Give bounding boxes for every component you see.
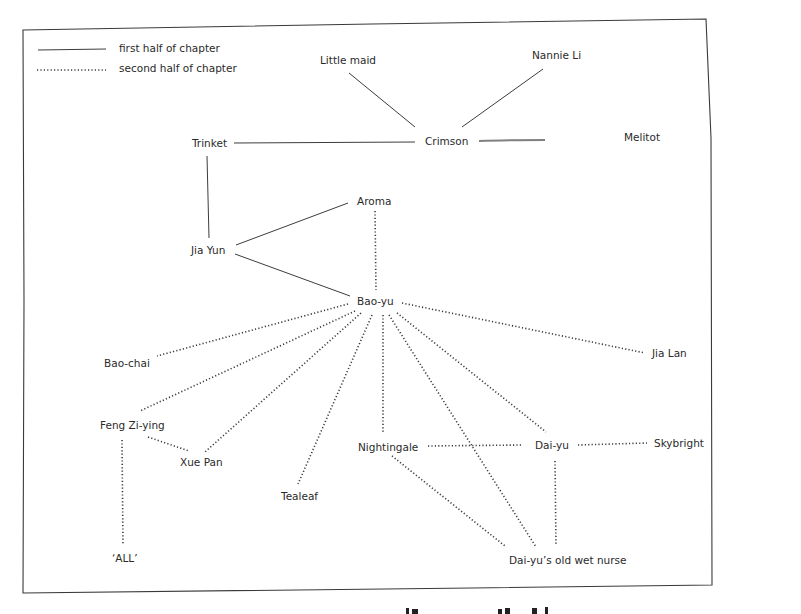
- edge-bao-yu-dai-yu: [397, 313, 546, 432]
- node-dai-yu: Dai-yu: [535, 439, 569, 451]
- edge-nightingale-dai-yu: [428, 445, 522, 446]
- edge-nightingale-wet-nurse: [392, 456, 505, 546]
- node-tealeaf: Tealeaf: [280, 490, 318, 502]
- node-bao-yu: Bao-yu: [357, 295, 394, 307]
- edge-bao-yu-bao-chai: [157, 304, 348, 356]
- node-little-maid: Little maid: [320, 54, 376, 66]
- node-feng-zi-ying: Feng Zi-ying: [100, 419, 165, 431]
- edge-trinket-jia-yun: [207, 156, 209, 238]
- node-trinket: Trinket: [191, 137, 227, 149]
- edge-bao-yu-feng-zi-ying: [140, 311, 355, 411]
- legend-label-first-half: first half of chapter: [119, 42, 220, 54]
- edge-jia-yun-aroma: [236, 203, 348, 245]
- legend: first half of chapter second half of cha…: [37, 42, 237, 74]
- node-jia-yun: Jia Yun: [190, 244, 225, 256]
- edge-aroma-bao-yu: [375, 211, 376, 290]
- edge-bao-yu-jia-lan: [402, 303, 645, 353]
- node-melitot: Melitot: [624, 131, 660, 143]
- edge-dai-yu-skybright: [578, 443, 647, 445]
- legend-solid-line-sample: [38, 49, 106, 50]
- edge-bao-yu-xue-pan: [205, 313, 361, 452]
- node-crimson: Crimson: [425, 135, 468, 147]
- node-xue-pan: Xue Pan: [180, 456, 223, 468]
- character-network-diagram: first half of chapter second half of cha…: [0, 0, 801, 614]
- node-skybright: Skybright: [654, 437, 704, 449]
- node-all: ‘ALL’: [112, 552, 138, 564]
- edge-feng-zi-ying-all: [122, 440, 123, 545]
- edge-dai-yu-wet-nurse: [555, 461, 556, 546]
- node-jia-lan: Jia Lan: [651, 347, 687, 359]
- edge-nannie-li-crimson: [462, 69, 543, 127]
- legend-label-second-half: second half of chapter: [119, 62, 237, 74]
- edge-bao-yu-wet-nurse: [389, 315, 536, 547]
- edge-trinket-crimson: [234, 142, 415, 143]
- edge-jia-yun-bao-yu: [235, 254, 350, 296]
- node-nightingale: Nightingale: [358, 441, 418, 453]
- node-aroma: Aroma: [357, 195, 391, 207]
- node-bao-chai: Bao-chai: [104, 357, 150, 369]
- cutoff-caption-fragments: [406, 607, 548, 614]
- edge-crimson-melitot: [479, 140, 545, 141]
- edge-little-maid-crimson: [349, 73, 415, 127]
- first-half-edges: [207, 69, 545, 296]
- edge-bao-yu-tealeaf: [298, 315, 372, 484]
- node-nannie-li: Nannie Li: [532, 49, 581, 61]
- node-dai-yu-old-wet-nurse: Dai-yu’s old wet nurse: [509, 554, 626, 566]
- second-half-edges: [122, 211, 647, 547]
- node-labels: Little maid Nannie Li Trinket Crimson Me…: [100, 49, 704, 566]
- edge-feng-zi-ying-xue-pan: [148, 437, 189, 451]
